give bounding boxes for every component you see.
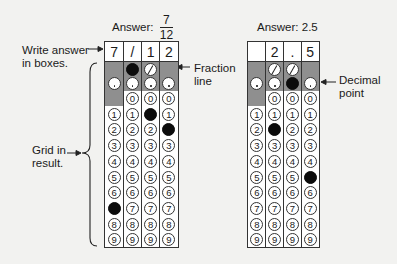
digit-bubble-4[interactable]: 4 xyxy=(144,155,157,168)
answer-box[interactable]: 2 xyxy=(160,42,178,61)
digit-bubble-2[interactable]: 2 xyxy=(304,123,317,136)
annotation-arrows xyxy=(0,0,397,264)
answer-box[interactable]: / xyxy=(123,42,141,61)
digit-bubble-6[interactable]: 6 xyxy=(286,186,299,199)
digit-bubble-6[interactable]: 6 xyxy=(162,186,175,199)
digit-bubble-4[interactable]: 4 xyxy=(268,155,281,168)
digit-bubble-4[interactable]: 4 xyxy=(286,155,299,168)
digit-bubble-6[interactable]: 6 xyxy=(144,186,157,199)
digit-bubble-2[interactable]: 2 xyxy=(250,123,263,136)
digit-bubble-0[interactable]: 0 xyxy=(162,92,175,105)
digit-bubble-8[interactable]: 8 xyxy=(286,218,299,231)
answer-box[interactable]: 7 xyxy=(105,42,123,61)
digit-bubble-5[interactable]: 5 xyxy=(304,171,317,184)
digit-bubble-3[interactable]: 3 xyxy=(126,139,139,152)
decimal-bubble[interactable] xyxy=(304,77,317,90)
digit-bubble-8[interactable]: 8 xyxy=(126,218,139,231)
digit-bubble-3[interactable]: 3 xyxy=(250,139,263,152)
digit-bubble-6[interactable]: 6 xyxy=(250,186,263,199)
slash-bubble[interactable] xyxy=(286,63,299,76)
column-divider xyxy=(265,42,266,247)
digit-bubble-9[interactable]: 9 xyxy=(126,233,139,246)
digit-bubble-6[interactable]: 6 xyxy=(108,186,121,199)
digit-bubble-4[interactable]: 4 xyxy=(304,155,317,168)
answer-box[interactable]: 2 xyxy=(266,42,284,61)
digit-bubble-3[interactable]: 3 xyxy=(304,139,317,152)
digit-bubble-1[interactable]: 1 xyxy=(304,108,317,121)
digit-bubble-1[interactable]: 1 xyxy=(268,108,281,121)
answer-box[interactable] xyxy=(248,42,266,61)
digit-bubble-8[interactable]: 8 xyxy=(250,218,263,231)
digit-bubble-7[interactable]: 7 xyxy=(162,202,175,215)
digit-bubble-1[interactable]: 1 xyxy=(108,108,121,121)
digit-bubble-2[interactable]: 2 xyxy=(108,123,121,136)
digit-bubble-7[interactable]: 7 xyxy=(250,202,263,215)
digit-bubble-4[interactable]: 4 xyxy=(126,155,139,168)
decimal-bubble[interactable] xyxy=(108,77,121,90)
digit-bubble-0[interactable]: 0 xyxy=(304,92,317,105)
digit-bubble-8[interactable]: 8 xyxy=(304,218,317,231)
digit-bubble-7[interactable]: 7 xyxy=(268,202,281,215)
answer-box[interactable]: 5 xyxy=(301,42,319,61)
digit-bubble-9[interactable]: 9 xyxy=(268,233,281,246)
digit-bubble-2[interactable]: 2 xyxy=(144,123,157,136)
digit-bubble-7[interactable]: 7 xyxy=(144,202,157,215)
decimal-bubble[interactable] xyxy=(126,77,139,90)
decimal-bubble[interactable] xyxy=(286,77,299,90)
digit-bubble-7[interactable]: 7 xyxy=(126,202,139,215)
digit-bubble-5[interactable]: 5 xyxy=(144,171,157,184)
column-divider xyxy=(301,42,302,247)
slash-bubble[interactable] xyxy=(126,63,139,76)
digit-bubble-0[interactable]: 0 xyxy=(126,92,139,105)
digit-bubble-1[interactable]: 1 xyxy=(126,108,139,121)
digit-bubble-8[interactable]: 8 xyxy=(108,218,121,231)
digit-bubble-0[interactable]: 0 xyxy=(144,92,157,105)
digit-bubble-1[interactable]: 1 xyxy=(250,108,263,121)
digit-bubble-2[interactable]: 2 xyxy=(286,123,299,136)
digit-bubble-5[interactable]: 5 xyxy=(250,171,263,184)
column-divider xyxy=(283,42,284,247)
digit-bubble-2[interactable]: 2 xyxy=(162,123,175,136)
digit-bubble-1[interactable]: 1 xyxy=(286,108,299,121)
digit-bubble-3[interactable]: 3 xyxy=(286,139,299,152)
digit-bubble-0[interactable]: 0 xyxy=(268,92,281,105)
digit-bubble-3[interactable]: 3 xyxy=(108,139,121,152)
digit-bubble-9[interactable]: 9 xyxy=(108,233,121,246)
digit-bubble-1[interactable]: 1 xyxy=(162,108,175,121)
digit-bubble-8[interactable]: 8 xyxy=(162,218,175,231)
digit-bubble-9[interactable]: 9 xyxy=(304,233,317,246)
digit-bubble-5[interactable]: 5 xyxy=(108,171,121,184)
digit-bubble-6[interactable]: 6 xyxy=(268,186,281,199)
digit-bubble-0[interactable]: 0 xyxy=(286,92,299,105)
digit-bubble-7[interactable]: 7 xyxy=(108,202,121,215)
digit-bubble-3[interactable]: 3 xyxy=(268,139,281,152)
digit-bubble-3[interactable]: 3 xyxy=(162,139,175,152)
digit-bubble-8[interactable]: 8 xyxy=(268,218,281,231)
digit-bubble-4[interactable]: 4 xyxy=(250,155,263,168)
answer-box[interactable]: 1 xyxy=(142,42,160,61)
digit-bubble-9[interactable]: 9 xyxy=(286,233,299,246)
digit-bubble-6[interactable]: 6 xyxy=(304,186,317,199)
digit-bubble-8[interactable]: 8 xyxy=(144,218,157,231)
digit-bubble-1[interactable]: 1 xyxy=(144,108,157,121)
digit-bubble-2[interactable]: 2 xyxy=(268,123,281,136)
digit-bubble-7[interactable]: 7 xyxy=(304,202,317,215)
digit-bubble-4[interactable]: 4 xyxy=(108,155,121,168)
digit-bubble-3[interactable]: 3 xyxy=(144,139,157,152)
digit-bubble-5[interactable]: 5 xyxy=(126,171,139,184)
shaded-zero-slot xyxy=(105,91,123,106)
grid-brace xyxy=(82,63,97,246)
digit-bubble-5[interactable]: 5 xyxy=(268,171,281,184)
digit-bubble-5[interactable]: 5 xyxy=(162,171,175,184)
fraction-answer-grid: 7/12123456789012345678901234567890123456… xyxy=(104,41,179,248)
digit-bubble-6[interactable]: 6 xyxy=(126,186,139,199)
digit-bubble-9[interactable]: 9 xyxy=(144,233,157,246)
digit-bubble-4[interactable]: 4 xyxy=(162,155,175,168)
digit-bubble-9[interactable]: 9 xyxy=(250,233,263,246)
column-divider xyxy=(159,42,160,247)
answer-box[interactable]: . xyxy=(284,42,302,61)
digit-bubble-7[interactable]: 7 xyxy=(286,202,299,215)
digit-bubble-9[interactable]: 9 xyxy=(162,233,175,246)
digit-bubble-2[interactable]: 2 xyxy=(126,123,139,136)
digit-bubble-5[interactable]: 5 xyxy=(286,171,299,184)
